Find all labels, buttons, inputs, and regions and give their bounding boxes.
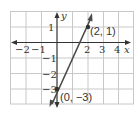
x-axis-label: x bbox=[124, 44, 130, 55]
x-tick-label: −2 bbox=[15, 44, 30, 55]
x-tick-label: 4 bbox=[114, 44, 120, 55]
point-0-neg3 bbox=[55, 87, 59, 91]
point-label-0-neg3: (0, −3) bbox=[60, 91, 92, 103]
y-axis-down-arrow-icon bbox=[55, 102, 60, 108]
point-label-2-1: (2, 1) bbox=[90, 25, 116, 37]
y-tick-label: −1 bbox=[42, 53, 57, 64]
y-axis-label: y bbox=[60, 10, 67, 21]
x-tick-label: 2 bbox=[84, 44, 90, 55]
x-tick-label: 3 bbox=[99, 44, 105, 55]
y-axis-up-arrow-icon bbox=[55, 12, 60, 18]
y-tick-label: −3 bbox=[42, 84, 57, 95]
y-tick-label: 1 bbox=[48, 22, 54, 33]
y-tick-label: −2 bbox=[42, 69, 57, 80]
coordinate-plane: −2 −1 2 3 4 x 1 −1 −2 −3 y (2, 1) (0, −3… bbox=[0, 0, 138, 115]
